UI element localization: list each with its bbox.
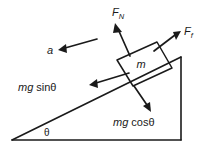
normal-force-arrowhead [113, 23, 122, 33]
friction-force-subscript: f [191, 31, 194, 40]
weight-perpendicular-line [134, 86, 147, 105]
acceleration-line [65, 39, 97, 48]
weight-parallel-label: mgsinθ [18, 81, 56, 93]
acceleration-label: a [47, 44, 53, 56]
weight-perpendicular-function: cosθ [131, 116, 154, 128]
friction-force-label: Ff [184, 25, 194, 40]
friction-force-vector [154, 31, 181, 51]
normal-force-subscript: N [119, 12, 125, 21]
weight-perpendicular-vector [134, 86, 151, 112]
free-body-diagram-svg: θ m FN Ff mgsinθ [0, 0, 204, 152]
normal-force-vector [113, 23, 130, 56]
acceleration-vector [58, 39, 97, 53]
incline-triangle [12, 57, 181, 140]
inclined-plane-diagram: θ m FN Ff mgsinθ [0, 0, 204, 152]
weight-perpendicular-label: mgcosθ [113, 116, 155, 128]
weight-perpendicular-prefix: mg [113, 116, 129, 128]
angle-theta-label: θ [44, 127, 50, 138]
acceleration-arrowhead [58, 44, 67, 53]
block-mass-label: m [136, 58, 145, 70]
normal-force-line [118, 29, 130, 56]
block-mass: m [117, 42, 172, 86]
incline-slope-line [12, 57, 181, 140]
weight-parallel-line [96, 73, 129, 83]
weight-parallel-arrowhead [89, 79, 98, 88]
weight-parallel-function: sinθ [36, 81, 56, 93]
weight-parallel-prefix: mg [18, 81, 34, 93]
normal-force-label: FN [112, 6, 125, 21]
